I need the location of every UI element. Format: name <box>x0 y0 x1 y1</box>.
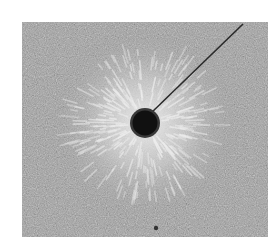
wire-cross-section <box>133 111 158 136</box>
iron-filings-photo <box>22 22 268 237</box>
field-pattern-graphic <box>22 22 268 237</box>
